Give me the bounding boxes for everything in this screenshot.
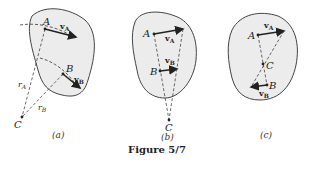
svg-text:A: A xyxy=(142,28,150,39)
svg-text:B: B xyxy=(149,66,157,77)
svg-text:C: C xyxy=(14,119,22,130)
svg-text:A: A xyxy=(247,30,255,41)
caption-a: (a) xyxy=(52,130,64,140)
panel-b: A B C vA vB xyxy=(132,12,196,133)
svg-text:A: A xyxy=(42,16,50,27)
svg-text:B: B xyxy=(65,63,73,74)
figure-title: Figure 5/7 xyxy=(0,144,314,155)
svg-text:rA: rA xyxy=(18,80,27,90)
panel-a: A B C vA vB rA rB xyxy=(14,9,94,130)
caption-b: (b) xyxy=(161,132,174,142)
rigid-body-c xyxy=(228,13,297,100)
svg-text:rB: rB xyxy=(38,103,47,113)
caption-c: (c) xyxy=(260,130,272,140)
svg-text:C: C xyxy=(266,60,274,71)
panel-c: A B C vA vB xyxy=(228,13,297,100)
svg-text:B: B xyxy=(268,80,276,91)
